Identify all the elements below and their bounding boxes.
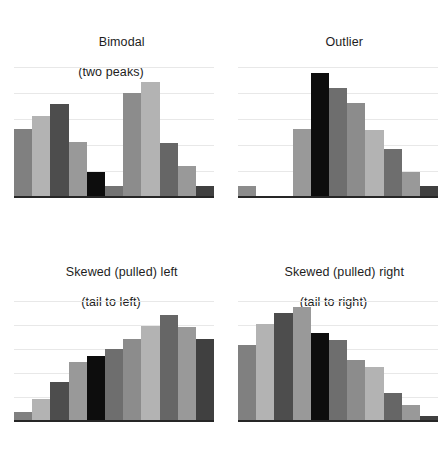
bar [311, 333, 329, 422]
histogram-shapes-figure: Bimodal (two peaks) Outlier Skewed (pull… [0, 0, 445, 451]
bar [69, 142, 87, 198]
bar [141, 326, 159, 422]
bar [311, 73, 329, 198]
bar [274, 313, 292, 422]
bar [87, 356, 105, 422]
panel-skewed-left: Skewed (pulled) left (tail to left) [0, 226, 222, 451]
panel-title-line1: Outlier [325, 35, 363, 49]
bar [50, 104, 68, 198]
panel-title-line1: Skewed (pulled) left [66, 265, 178, 279]
panel-title-line1: Skewed (pulled) right [284, 265, 404, 279]
bar [347, 360, 365, 422]
x-axis-outlier [238, 196, 438, 198]
bar [347, 103, 365, 198]
bar [123, 339, 141, 422]
bar [123, 93, 141, 198]
bar [384, 393, 402, 422]
bar [365, 130, 383, 198]
x-axis-bimodal [14, 196, 214, 198]
bar [293, 129, 311, 198]
bars-outlier [238, 68, 438, 198]
x-axis-skewed-left [14, 420, 214, 422]
bar [160, 315, 178, 422]
bar [69, 362, 87, 422]
bar [329, 340, 347, 422]
bar [141, 82, 159, 198]
plot-skewed-right [238, 302, 438, 422]
bar [14, 129, 32, 198]
bar [178, 166, 196, 199]
bar [160, 143, 178, 198]
bar [178, 327, 196, 422]
bar [238, 345, 256, 422]
panel-title-line1: Bimodal [99, 35, 145, 49]
bar [329, 88, 347, 199]
bars-skewed-left [14, 302, 214, 422]
bar [256, 324, 274, 422]
panel-bimodal: Bimodal (two peaks) [0, 0, 222, 226]
bar [402, 172, 420, 198]
bars-skewed-right [238, 302, 438, 422]
plot-bimodal [14, 68, 214, 198]
bar [365, 367, 383, 422]
plot-skewed-left [14, 302, 214, 422]
x-axis-skewed-right [238, 420, 438, 422]
bar [32, 116, 50, 198]
bar [384, 149, 402, 198]
bar [105, 349, 123, 422]
bar [50, 382, 68, 422]
bar [87, 172, 105, 198]
bar [32, 399, 50, 422]
panel-skewed-right: Skewed (pulled) right (tail to right) [222, 226, 445, 451]
bar [196, 339, 214, 422]
panel-outlier: Outlier [222, 0, 445, 226]
bar [293, 307, 311, 422]
bars-bimodal [14, 68, 214, 198]
plot-outlier [238, 68, 438, 198]
